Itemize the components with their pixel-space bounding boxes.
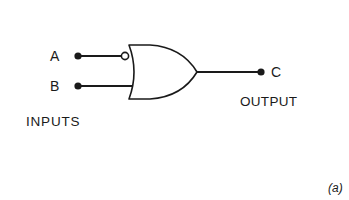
inputs-group-label: INPUTS (26, 115, 80, 129)
output-c-terminal (257, 68, 264, 75)
output-c-label: C (271, 65, 282, 79)
or-gate-icon (129, 45, 197, 99)
figure-caption: (a) (328, 181, 343, 195)
input-a-terminal (74, 52, 81, 59)
input-b-terminal (74, 82, 81, 89)
logic-gate-figure: A B C INPUTS OUTPUT (a) (0, 0, 349, 200)
output-group-label: OUTPUT (240, 95, 297, 109)
inversion-bubble-icon (121, 52, 128, 59)
input-a-label: A (50, 49, 60, 63)
input-b-label: B (50, 79, 60, 93)
